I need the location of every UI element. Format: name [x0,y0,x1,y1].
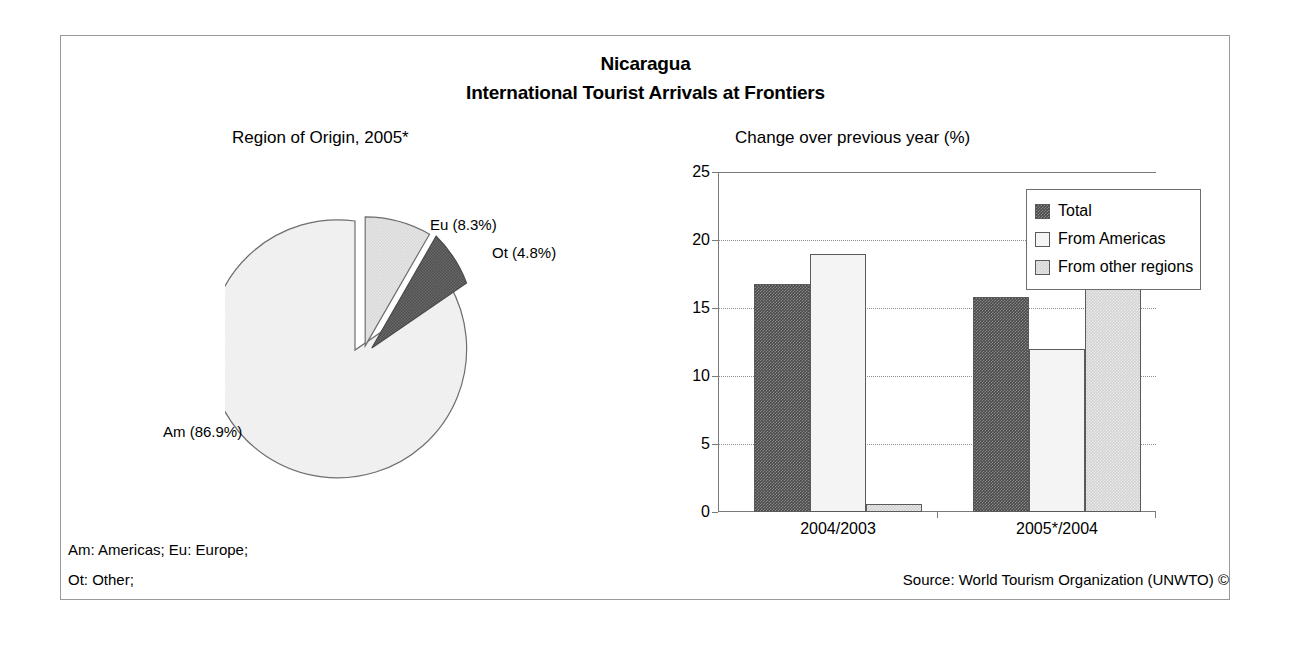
y-tickmark-10 [712,376,718,377]
pie-label-americas: Am (86.9%) [163,423,242,440]
x-label-2005-2004: 2005*/2004 [987,520,1127,538]
bar-2005-2004-from-other-regions[interactable] [1085,282,1141,512]
y-tickmark-15 [712,308,718,309]
abbreviation-note-line2: Ot: Other; [68,571,134,588]
tourism-figure: Nicaragua International Tourist Arrivals… [0,0,1291,649]
x-tickmark-mid [937,512,938,518]
bar-2005-2004-from-americas[interactable] [1029,349,1085,512]
legend-item-total[interactable]: Total [1035,197,1192,225]
legend-swatch-from-other-regions-icon [1035,260,1050,275]
gridline-25 [718,172,1156,173]
y-tick-0: 0 [670,503,710,521]
chart-title-country: Nicaragua [0,53,1291,75]
pie-chart-subtitle: Region of Origin, 2005* [232,128,409,148]
source-credit: Source: World Tourism Organization (UNWT… [903,571,1229,588]
pie-label-other: Ot (4.8%) [492,244,556,261]
y-tick-15: 15 [670,299,710,317]
y-tick-20: 20 [670,231,710,249]
bar-2004-2003-from-other-regions[interactable] [866,504,922,512]
pie-chart-svg [225,185,555,495]
legend-label-from-americas: From Americas [1058,230,1166,248]
legend-swatch-from-americas-icon [1035,232,1050,247]
legend-swatch-total-icon [1035,204,1050,219]
abbreviation-note-line1: Am: Americas; Eu: Europe; [68,541,248,558]
bar-2005-2004-total[interactable] [973,297,1029,512]
pie-chart [225,185,555,495]
y-tick-25: 25 [670,163,710,181]
bar-chart-subtitle: Change over previous year (%) [735,128,970,148]
legend-label-from-other-regions: From other regions [1058,258,1193,276]
x-tickmark-end [1155,512,1156,518]
legend-item-from-other-regions[interactable]: From other regions [1035,253,1192,281]
y-tick-10: 10 [670,367,710,385]
x-label-2004-2003: 2004/2003 [768,520,908,538]
y-tickmark-5 [712,444,718,445]
pie-label-europe: Eu (8.3%) [430,216,497,233]
legend-item-from-americas[interactable]: From Americas [1035,225,1192,253]
chart-title-subject: International Tourist Arrivals at Fronti… [0,82,1291,104]
bar-chart-legend: Total From Americas From other regions [1026,189,1201,290]
bar-2004-2003-from-americas[interactable] [810,254,866,512]
y-axis: 25 20 15 10 5 0 [660,172,710,512]
y-tickmark-25 [712,172,718,173]
y-tick-5: 5 [670,435,710,453]
legend-label-total: Total [1058,202,1092,220]
bar-2004-2003-total[interactable] [754,284,810,513]
y-tickmark-0 [712,512,718,513]
y-tickmark-20 [712,240,718,241]
